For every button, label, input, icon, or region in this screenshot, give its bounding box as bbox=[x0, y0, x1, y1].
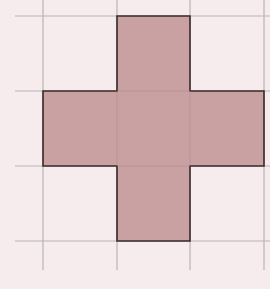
cross-shape bbox=[43, 16, 264, 241]
grid-diagram bbox=[0, 0, 270, 289]
